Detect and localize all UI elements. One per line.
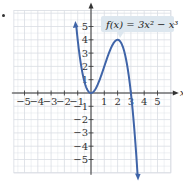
- y-tick-label: 4: [82, 34, 88, 45]
- y-tick-label: 5: [82, 21, 88, 32]
- x-axis-label: x: [180, 87, 183, 98]
- equation-text: f(x) = 3x² − x³: [105, 19, 178, 30]
- y-tick-label: −3: [73, 127, 88, 138]
- x-tick-label: 4: [141, 96, 147, 107]
- y-tick-label: 3: [82, 48, 88, 59]
- x-tick-label: 2: [114, 96, 120, 107]
- y-tick-label: −2: [73, 114, 88, 125]
- x-tick-label: 1: [101, 96, 107, 107]
- curve-arrow-end-icon: [135, 173, 141, 180]
- x-tick-label: 5: [154, 96, 160, 107]
- x-axis-arrow-icon: [173, 91, 179, 96]
- y-tick-label: −1: [73, 101, 88, 112]
- function-graph: −5−4−3−2−112345−5−4−3−2−112345 f(x) = 3x…: [0, 0, 183, 181]
- y-axis-arrow-icon: [89, 3, 94, 9]
- y-tick-label: −4: [73, 141, 88, 152]
- y-tick-label: −5: [73, 154, 88, 165]
